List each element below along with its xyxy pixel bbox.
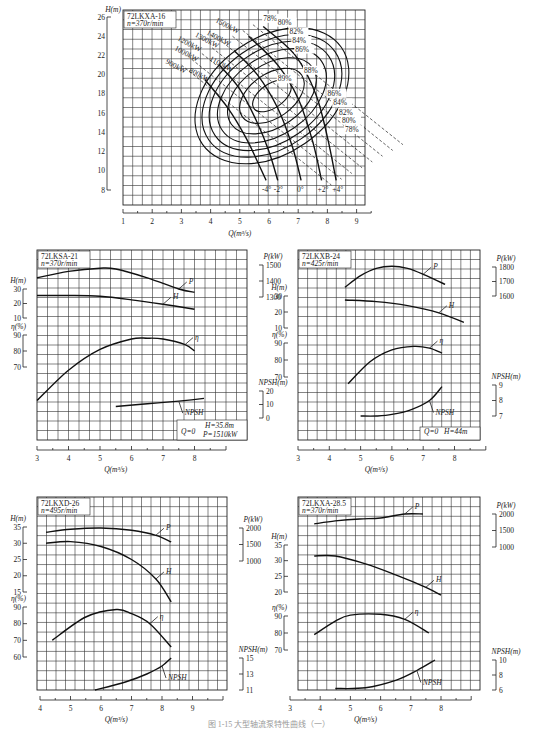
x-tick-label: 3 (288, 704, 292, 713)
shutoff-head-label: H=35.8m (204, 421, 235, 430)
y-tick-label: 2000 (246, 524, 261, 533)
y-tick-label: 70 (275, 373, 283, 382)
y-tick-label: 80 (14, 347, 22, 356)
x-tick-label: 4 (327, 454, 331, 463)
curve-label: η (415, 607, 419, 616)
y-tick-label: 20 (275, 308, 283, 317)
efficiency-label: 78% (263, 14, 277, 23)
shutoff-head-label: H=44m (443, 427, 468, 436)
y-tick-label: 1800 (499, 263, 514, 272)
curve-label: NPSH (167, 673, 187, 682)
y-tick-label: 9 (499, 381, 503, 390)
x-tick-label: 2 (150, 217, 154, 226)
y-axis-label: P(kW) (495, 254, 516, 263)
y-tick-label: 30 (275, 292, 283, 301)
speed-label: n=370r/min (127, 19, 164, 28)
blade-angle-label: +4° (332, 185, 343, 194)
curve-label: P (165, 523, 171, 532)
curve-h (314, 555, 441, 595)
y-tick-label: 25 (275, 572, 283, 581)
curve-label: P (188, 277, 194, 286)
y-tick-label: 18 (98, 89, 106, 98)
blade-angle-label: -4° (262, 185, 271, 194)
y-tick-label: 20 (98, 70, 106, 79)
curve-label: P (414, 502, 420, 511)
efficiency-label: 84% (333, 98, 347, 107)
x-tick-label: 8 (453, 454, 457, 463)
y-tick-label: 0 (266, 414, 270, 423)
y-tick-label: 20 (14, 299, 22, 308)
x-tick-label: 6 (130, 454, 134, 463)
x-axis-label: Q(m³/s) (105, 715, 129, 724)
y-tick-label: 15 (246, 654, 254, 663)
efficiency-label: 89% (278, 74, 292, 83)
y-axis-label: NPSH(m) (237, 645, 268, 654)
curve-p (37, 268, 195, 292)
curve-label: H (435, 575, 442, 584)
x-tick-label: 8 (326, 217, 330, 226)
y-tick-label: 16 (98, 109, 106, 118)
y-tick-label: 7 (499, 412, 503, 421)
efficiency-label: 86% (295, 45, 309, 54)
y-tick-label: 1500 (266, 261, 281, 270)
x-tick-label: 4 (209, 217, 213, 226)
y-axis-label: η(%) (11, 594, 26, 603)
y-tick-label: 13 (246, 670, 254, 679)
curve-label: NPSH (422, 678, 442, 687)
grid (37, 250, 247, 440)
x-axis-label: Q(m³/s) (228, 229, 252, 238)
y-tick-label: 2000 (499, 510, 514, 519)
curve-efficiency (348, 346, 442, 383)
chart-72lkxa-16: 8101214161820222426H(m)123456789Q(m³/s)7… (98, 0, 403, 238)
y-tick-label: 12 (98, 147, 106, 156)
y-tick-label: 90 (14, 331, 22, 340)
y-tick-label: 10 (499, 656, 507, 665)
efficiency-label: 80% (278, 18, 292, 27)
curve-npsh (116, 398, 204, 406)
y-tick-label: 1700 (499, 277, 514, 286)
figure-caption: 图 1-15 大型轴流泵特性曲线（一） (208, 719, 331, 729)
y-tick-label: 70 (14, 636, 22, 645)
x-tick-label: 8 (193, 454, 197, 463)
y-tick-label: 8 (499, 396, 503, 405)
efficiency-label: 84% (292, 36, 306, 45)
x-axis-label: Q(m³/s) (104, 465, 128, 474)
curve-label: H (172, 292, 179, 301)
y-tick-label: 10 (266, 400, 274, 409)
x-tick-label: 3 (35, 454, 39, 463)
speed-label: n=370r/min (41, 259, 78, 268)
chart-72lkxd-26: 456789Q(m³/s)72LKXD-26n=495r/min15202530… (9, 497, 268, 724)
curve-p (345, 266, 445, 287)
y-axis-label: H(m) (270, 283, 287, 292)
y-tick-label: 8 (499, 671, 503, 680)
y-axis-label: η(%) (272, 603, 287, 612)
y-tick-label: 1000 (499, 543, 514, 552)
chart-72lkxa-28-5: 345678Q(m³/s)72LKXA-28.5n=370r/min202530… (270, 497, 521, 724)
y-axis-label: H(m) (9, 514, 26, 523)
grid (123, 10, 365, 205)
x-tick-label: 5 (69, 704, 73, 713)
power-label: 900kW (164, 57, 189, 76)
shutoff-flow-label: Q=0 (424, 427, 438, 436)
x-tick-label: 6 (379, 704, 383, 713)
chart-72lkxb-24: 345678Q(m³/s)72LKXB-24n=425r/min102030H(… (270, 250, 521, 474)
y-tick-label: 8 (101, 186, 105, 195)
x-tick-label: 6 (390, 454, 394, 463)
x-tick-label: 6 (267, 217, 271, 226)
y-axis-label: H(m) (270, 532, 287, 541)
y-tick-label: 20 (275, 588, 283, 597)
curve-label: η (439, 336, 443, 345)
x-tick-label: 4 (67, 454, 71, 463)
curve-p (46, 528, 171, 542)
y-tick-label: 1500 (499, 526, 514, 535)
x-tick-label: 5 (98, 454, 102, 463)
x-tick-label: 9 (355, 217, 359, 226)
y-tick-label: 1600 (499, 292, 514, 301)
y-tick-label: 90 (275, 612, 283, 621)
y-tick-label: 1500 (246, 540, 261, 549)
x-tick-label: 7 (421, 454, 425, 463)
x-tick-label: 8 (439, 704, 443, 713)
curve-label: η (160, 612, 164, 621)
x-axis-label: Q(m³/s) (354, 715, 378, 724)
speed-label: n=495r/min (41, 506, 78, 515)
